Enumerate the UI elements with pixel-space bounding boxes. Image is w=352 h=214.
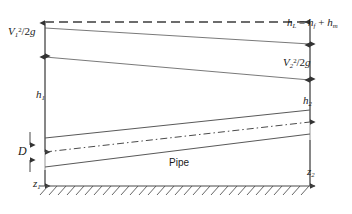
pipe-centerline bbox=[45, 122, 310, 152]
piezometric-head-1-label: h1 bbox=[36, 89, 45, 102]
pipe-flow-diagram bbox=[0, 0, 352, 214]
subscript-m: m bbox=[333, 22, 338, 29]
subscript-1: 1 bbox=[37, 183, 40, 190]
subscript-2: 2 bbox=[311, 171, 314, 178]
symbol-D: D bbox=[18, 144, 27, 158]
subscript-f: f bbox=[314, 22, 316, 29]
subscript-1: 1 bbox=[42, 94, 45, 101]
subscript-2: 2 bbox=[309, 100, 312, 107]
pipe-label: Pipe bbox=[169, 158, 189, 168]
figure-canvas: V12/2g hL = hf + hm V22/2g h1 h2 D z1 z2… bbox=[0, 0, 352, 214]
diameter-label: D bbox=[18, 145, 27, 157]
pipe-upper-wall bbox=[45, 110, 310, 138]
symbol-equals: = bbox=[299, 16, 305, 28]
velocity-head-2-label: V22/2g bbox=[283, 57, 311, 70]
subscript-L: L bbox=[293, 22, 297, 29]
symbol-g: g bbox=[305, 56, 311, 68]
symbol-V: V bbox=[283, 56, 290, 68]
piezometric-head-2-label: h2 bbox=[303, 95, 312, 108]
hydraulic-grade-line bbox=[45, 57, 310, 80]
total-head-line bbox=[45, 28, 310, 44]
ground-hatching bbox=[40, 186, 309, 195]
elevation-2-label: z2 bbox=[307, 166, 315, 179]
velocity-head-1-label: V12/2g bbox=[8, 26, 36, 39]
symbol-g: g bbox=[30, 25, 36, 37]
elevation-1-label: z1 bbox=[33, 178, 41, 191]
symbol-V: V bbox=[8, 25, 15, 37]
symbol-plus: + bbox=[318, 16, 324, 28]
head-loss-label: hL = hf + hm bbox=[287, 17, 338, 30]
